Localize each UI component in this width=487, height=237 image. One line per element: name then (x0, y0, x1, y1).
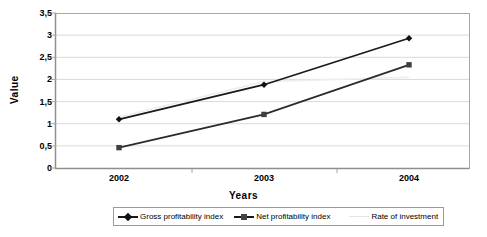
legend-label: Gross profitability index (140, 212, 223, 221)
legend-label: Rate of investment (371, 212, 438, 221)
diamond-marker-icon (118, 212, 138, 221)
legend-item-rate-of-investment[interactable]: Rate of investment (349, 212, 438, 221)
data-point (406, 62, 411, 67)
data-point (116, 145, 121, 150)
plot-area (0, 0, 487, 237)
legend-item-net-profitability-index[interactable]: Net profitability index (234, 212, 330, 221)
line-marker-icon (349, 212, 369, 221)
chart-legend: Gross profitability index Net profitabil… (113, 207, 444, 226)
x-tick-label-2003: 2003 (254, 173, 274, 183)
x-tick-label-2002: 2002 (109, 173, 129, 183)
chart-container: Value 3,5 3 2,5 2 1,5 1 0,5 0 (0, 0, 487, 237)
legend-item-gross-profitability-index[interactable]: Gross profitability index (118, 212, 223, 221)
square-marker-icon (234, 212, 254, 221)
legend-label: Net profitability index (256, 212, 330, 221)
x-tick-label-2004: 2004 (399, 173, 419, 183)
data-point (261, 112, 266, 117)
x-axis-title: Years (0, 190, 487, 201)
